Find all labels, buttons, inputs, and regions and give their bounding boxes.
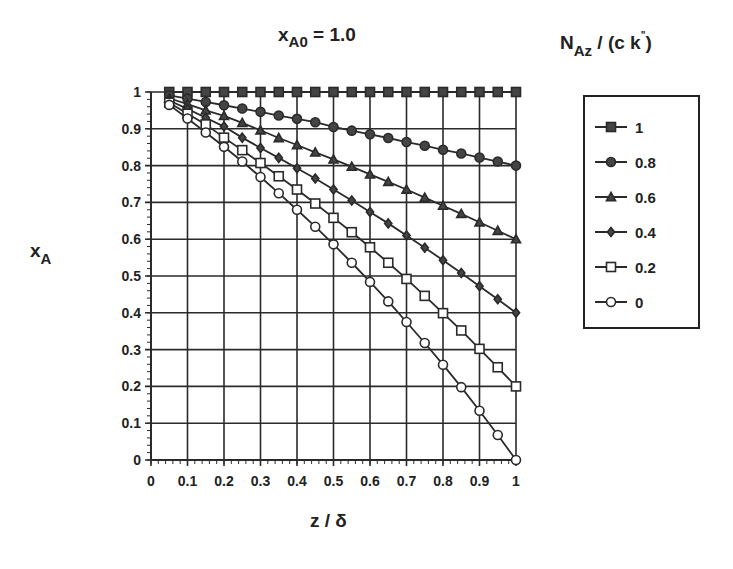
y-tick-label: 0.4 [122, 305, 142, 321]
open-circle-marker-icon [402, 318, 411, 327]
open-square-marker-icon [347, 228, 356, 237]
filled-triangle-marker-icon [329, 155, 338, 163]
open-circle-marker-icon [183, 114, 192, 123]
open-square-marker-icon [293, 185, 302, 194]
filled-diamond-marker-icon [312, 174, 319, 183]
filled-diamond-marker-icon [366, 207, 373, 216]
x-tick-label: 0.6 [360, 473, 380, 489]
open-square-marker-icon [420, 291, 429, 300]
filled-diamond-marker-icon [330, 185, 337, 194]
filled-circle-marker-icon [311, 118, 320, 127]
x-tick-label: 0.2 [214, 473, 234, 489]
x-tick-label: 0.3 [251, 473, 271, 489]
open-circle-marker-icon [256, 173, 265, 182]
legend-item: 1 [593, 115, 643, 139]
filled-square-marker-icon [293, 88, 302, 97]
x-tick-label: 0.9 [470, 473, 490, 489]
filled-square-marker-icon [607, 123, 616, 132]
open-circle-marker-icon [607, 298, 616, 307]
open-circle-marker-icon [293, 205, 302, 214]
filled-square-marker-icon [238, 88, 247, 97]
open-square-marker-icon [384, 258, 393, 267]
legend: 10.80.60.40.20 [583, 95, 700, 329]
filled-diamond-marker-icon [512, 308, 519, 317]
x-tick-label: 0.8 [433, 473, 453, 489]
open-circle-marker-icon [475, 406, 484, 415]
filled-circle-marker-icon [366, 130, 375, 139]
filled-circle-marker-icon [475, 153, 484, 162]
open-circle-marker-icon [347, 258, 356, 267]
open-square-marker-icon [238, 146, 247, 155]
filled-square-marker-icon [366, 88, 375, 97]
legend-label: 0.2 [635, 259, 656, 276]
filled-triangle-marker-icon [220, 111, 229, 119]
open-square-marker-icon [475, 344, 484, 353]
filled-circle-marker-icon [347, 126, 356, 135]
open-circle-marker-icon [384, 297, 393, 306]
open-square-marker-icon [366, 243, 375, 252]
legend-item: 0.6 [593, 185, 656, 209]
open-circle-marker-icon [420, 338, 429, 347]
filled-diamond-marker-icon [275, 153, 282, 162]
filled-diamond-marker-icon [494, 295, 501, 304]
filled-square-marker-icon [274, 88, 283, 97]
filled-circle-marker-icon [457, 149, 466, 158]
open-circle-marker-icon [238, 157, 247, 166]
filled-square-marker-icon [384, 88, 393, 97]
filled-circle-marker-icon [607, 158, 616, 167]
legend-item: 0.8 [593, 150, 656, 174]
filled-triangle-marker-icon [238, 118, 247, 126]
filled-circle-marker-icon [493, 157, 502, 166]
filled-diamond-marker-icon [348, 196, 355, 205]
filled-square-marker-icon [329, 88, 338, 97]
y-tick-label: 0.2 [122, 378, 142, 394]
filled-circle-marker-icon [256, 107, 265, 116]
filled-diamond-marker-icon [607, 228, 614, 237]
open-square-marker-icon [457, 326, 466, 335]
y-tick-label: 1 [133, 84, 141, 100]
filled-triangle-marker-icon [274, 134, 283, 142]
filled-diamond-marker-icon [385, 219, 392, 228]
series-1 [165, 88, 521, 97]
filled-circle-marker-icon [274, 111, 283, 120]
y-tick-label: 0.5 [122, 268, 142, 284]
filled-circle-marker-icon [293, 114, 302, 123]
filled-triangle-marker-icon [512, 235, 521, 243]
filled-square-marker-icon [439, 88, 448, 97]
open-square-marker-icon [402, 274, 411, 283]
filled-triangle-marker-icon [293, 140, 302, 148]
filled-triangle-marker-icon [384, 177, 393, 185]
legend-label: 1 [635, 119, 643, 136]
filled-square-marker-icon [311, 88, 320, 97]
y-tick-label: 0.3 [122, 342, 142, 358]
open-square-marker-icon [256, 159, 265, 168]
open-circle-marker-icon [493, 430, 502, 439]
x-tick-label: 0.7 [397, 473, 417, 489]
filled-circle-marker-icon [220, 101, 229, 110]
open-circle-marker-icon [274, 189, 283, 198]
filled-triangle-marker-icon [256, 126, 265, 134]
legend-item: 0.2 [593, 255, 656, 279]
filled-square-marker-icon [420, 88, 429, 97]
filled-circle-marker-icon [384, 134, 393, 143]
open-square-marker-icon [311, 199, 320, 208]
y-tick-label: 0 [133, 452, 141, 468]
filled-triangle-marker-icon [493, 226, 502, 234]
open-square-marker-icon [220, 133, 229, 142]
filled-triangle-marker-icon [366, 170, 375, 178]
filled-square-marker-icon [475, 88, 484, 97]
y-tick-label: 0.6 [122, 231, 142, 247]
filled-diamond-marker-icon [239, 133, 246, 142]
y-tick-label: 0.1 [122, 415, 142, 431]
open-square-marker-icon [329, 213, 338, 222]
filled-circle-marker-icon [439, 145, 448, 154]
open-circle-marker-icon [439, 360, 448, 369]
filled-square-marker-icon [201, 88, 210, 97]
filled-square-marker-icon [402, 88, 411, 97]
open-circle-marker-icon [220, 142, 229, 151]
x-tick-label: 1 [512, 473, 520, 489]
open-square-marker-icon [512, 382, 521, 391]
y-tick-label: 0.9 [122, 121, 142, 137]
filled-circle-marker-icon [329, 122, 338, 131]
open-square-marker-icon [607, 263, 616, 272]
